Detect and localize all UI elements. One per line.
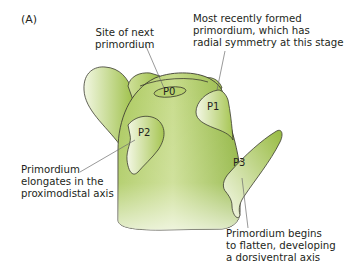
annotation-p0: Site of next primordium (95, 27, 154, 51)
p3-label: P3 (233, 157, 245, 168)
p0-label: P0 (163, 86, 175, 97)
p1-label: P1 (207, 101, 219, 112)
annotation-p3: Primordium begins to flatten, developing… (226, 228, 336, 264)
leader-line-p1 (217, 51, 225, 90)
shoot-apex-diagram: (A) (0, 0, 351, 276)
annotation-p1: Most recently formed primordium, which h… (193, 13, 344, 49)
p2-label: P2 (138, 127, 150, 138)
annotation-p2: Primordium elongates in the proximodista… (21, 164, 114, 200)
